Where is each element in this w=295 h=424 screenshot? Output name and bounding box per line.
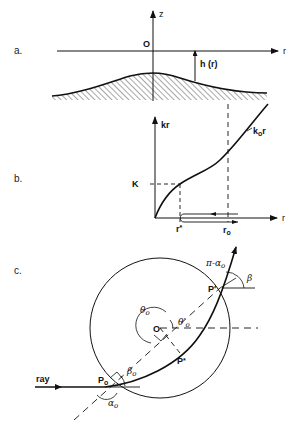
panel-b-label: b.	[14, 173, 22, 184]
beta0-label: βo	[126, 366, 136, 378]
depth-label: h (r)	[200, 59, 218, 69]
kr-axis-label: kr	[161, 120, 170, 130]
theta0-label: θo	[140, 305, 150, 317]
diagram-canvas: a. r z O h (r) b. kr r K	[0, 0, 295, 424]
panel-c-label: c.	[14, 265, 22, 276]
turning-arrow-right	[232, 220, 238, 224]
z-axis-label: z	[159, 9, 164, 19]
point-p0-label: Po	[98, 375, 108, 386]
panel-c: c. ray Po P′ P* O θo	[14, 247, 258, 420]
right-angle-p0	[110, 372, 122, 378]
panel-b: b. kr r K kor r* ro	[14, 104, 285, 236]
theta0prime-arc	[170, 320, 173, 328]
beta-arc	[226, 272, 244, 288]
pprime-short-line	[220, 278, 236, 288]
alpha0-label: αo	[108, 398, 118, 410]
radial-dashed-line	[74, 288, 220, 420]
panel-a: a. r z O h (r)	[14, 9, 286, 101]
point-pprime-label: P′	[208, 284, 216, 294]
center-o-label: O	[153, 324, 160, 334]
r-axis-b-label: r	[282, 213, 285, 223]
r-axis-label: r	[283, 46, 286, 56]
pi-minus-alpha0-label: π-αo	[205, 258, 225, 270]
k0r-label: kor	[253, 126, 266, 137]
theta0prime-label: θ′o	[178, 317, 190, 329]
r-star-label: r*	[176, 224, 183, 234]
ray-arrow	[55, 384, 62, 390]
seabed-hatching	[52, 73, 267, 100]
beta-label: β	[246, 273, 252, 283]
point-pstar-label: P*	[177, 356, 186, 366]
k-level-label: K	[132, 179, 139, 189]
panel-a-label: a.	[14, 45, 22, 56]
kr-curve	[155, 104, 268, 218]
o-to-pstar-dashed	[160, 328, 180, 353]
origin-label: O	[143, 39, 150, 49]
ray-label: ray	[36, 374, 50, 384]
r0-label: ro	[223, 225, 231, 236]
turning-arrow-left	[210, 212, 216, 216]
